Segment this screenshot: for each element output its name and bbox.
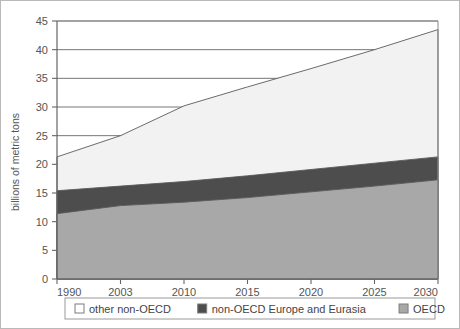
y-tick-label: 25 — [36, 130, 48, 142]
y-axis-title: billions of metric tons — [9, 113, 21, 211]
x-tick-label: 2025 — [362, 286, 386, 298]
y-tick-label: 0 — [42, 273, 48, 285]
y-tick-label: 5 — [42, 244, 48, 256]
y-tick-label: 10 — [36, 216, 48, 228]
y-tick-label: 30 — [36, 101, 48, 113]
y-tick-label: 40 — [36, 44, 48, 56]
x-tick-label: 2015 — [235, 286, 259, 298]
stacked-area-chart: 051015202530354045 199020032010201520202… — [1, 1, 460, 329]
x-tick-label: 2003 — [108, 286, 132, 298]
x-tick-label: 2020 — [299, 286, 323, 298]
chart-figure: 051015202530354045 199020032010201520202… — [0, 0, 460, 329]
legend-swatch — [75, 304, 84, 313]
legend-label: other non-OECD — [89, 303, 171, 315]
y-tick-label: 15 — [36, 187, 48, 199]
legend-label: non-OECD Europe and Eurasia — [212, 303, 367, 315]
legend-label: OECD — [413, 303, 445, 315]
x-tick-label: 2010 — [172, 286, 196, 298]
legend-swatch — [399, 304, 408, 313]
x-tick-label: 1990 — [57, 286, 81, 298]
y-tick-label: 45 — [36, 15, 48, 27]
x-axis: 1990200320102015202020252030 — [57, 279, 438, 298]
y-tick-label: 20 — [36, 158, 48, 170]
y-tick-label: 35 — [36, 72, 48, 84]
y-axis: 051015202530354045 — [36, 15, 57, 285]
chart-legend: other non-OECDnon-OECD Europe and Eurasi… — [65, 298, 445, 319]
x-tick-label: 2030 — [414, 286, 438, 298]
legend-swatch — [198, 304, 207, 313]
